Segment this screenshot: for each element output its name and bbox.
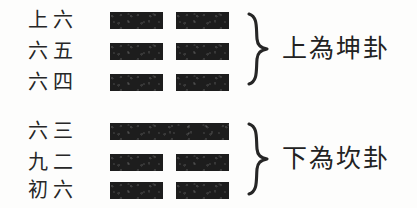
line-segment-left bbox=[110, 74, 163, 91]
hexagram-line-row: 六四 bbox=[0, 70, 417, 101]
line-segment-left bbox=[110, 43, 163, 60]
line-label-jiu-er: 九二 bbox=[28, 150, 94, 174]
line-segment-left bbox=[110, 154, 163, 171]
line-segment-left bbox=[110, 12, 163, 29]
right-curly-brace-icon bbox=[243, 122, 277, 196]
solid-line-liu-san bbox=[110, 123, 229, 140]
line-segment-right bbox=[176, 43, 229, 60]
lower-trigram-caption: 下為坎卦 bbox=[282, 144, 390, 174]
line-segment-left bbox=[110, 182, 163, 199]
line-label-shang-liu: 上六 bbox=[28, 8, 94, 32]
broken-line-liu-si bbox=[110, 74, 229, 91]
broken-line-liu-wu bbox=[110, 43, 229, 60]
broken-line-shang-liu bbox=[110, 12, 229, 29]
line-segment-right bbox=[176, 12, 229, 29]
broken-line-jiu-er bbox=[110, 154, 229, 171]
upper-trigram-group: 上六 六五 六四 上為坤卦 bbox=[0, 0, 417, 104]
line-label-liu-san: 六三 bbox=[28, 119, 94, 143]
line-label-liu-wu: 六五 bbox=[28, 39, 94, 63]
line-label-chu-liu: 初六 bbox=[28, 178, 94, 202]
line-segment-right bbox=[176, 74, 229, 91]
upper-trigram-caption: 上為坤卦 bbox=[282, 34, 390, 64]
broken-line-chu-liu bbox=[110, 182, 229, 199]
lower-trigram-group: 六三 九二 初六 下為坎卦 bbox=[0, 110, 417, 208]
hexagram-diagram: 上六 六五 六四 上為坤卦 bbox=[0, 0, 417, 208]
line-label-liu-si: 六四 bbox=[28, 70, 94, 94]
hexagram-line-row: 初六 bbox=[0, 178, 417, 208]
right-curly-brace-icon bbox=[243, 12, 277, 86]
line-segment-right bbox=[176, 154, 229, 171]
line-segment-full bbox=[110, 123, 229, 140]
line-segment-right bbox=[176, 182, 229, 199]
